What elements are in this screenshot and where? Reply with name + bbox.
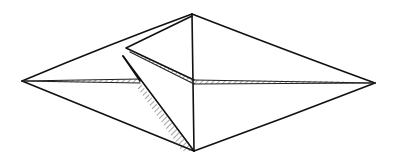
edge-left-top — [22, 14, 192, 81]
diamond-fold-illustration — [0, 0, 406, 164]
shadow-hatch — [136, 83, 194, 151]
flap-short-edge — [123, 56, 140, 81]
origami-drawing — [0, 0, 406, 164]
edge-right-bottom — [194, 83, 375, 151]
edge-top-right — [192, 14, 375, 83]
horizontal-hatched-band — [22, 79, 375, 84]
